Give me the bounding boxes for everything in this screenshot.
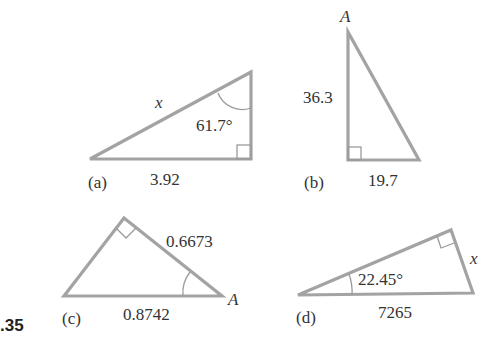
right-angle-marker-a — [237, 145, 251, 159]
part-label-c: (c) — [62, 309, 81, 328]
vertex-label-b: A — [339, 7, 351, 26]
side-label-c: 0.6673 — [166, 232, 213, 251]
part-label-a: (a) — [88, 173, 107, 192]
angle-arc-c — [183, 272, 190, 296]
vertical-side-label-b: 36.3 — [303, 88, 333, 107]
hypotenuse-label-a: x — [154, 93, 163, 112]
triangle-b-outline — [348, 32, 419, 160]
angle-label-a: 61.7° — [196, 116, 233, 135]
part-label-d: (d) — [296, 308, 316, 327]
base-label-b: 19.7 — [368, 171, 398, 190]
side-label-d: x — [469, 249, 478, 268]
angle-arc-d — [349, 274, 352, 295]
part-label-b: (b) — [304, 173, 324, 192]
triangle-d: 22.45° 7265 x (d) — [296, 230, 478, 327]
triangle-figure: x 61.7° 3.92 (a) A 36.3 19.7 (b) 0.6673 … — [0, 0, 478, 350]
problem-number: .35 — [0, 316, 24, 335]
triangle-b: A 36.3 19.7 (b) — [303, 7, 419, 192]
right-angle-marker-c — [116, 228, 136, 238]
base-label-a: 3.92 — [150, 170, 180, 189]
vertex-label-c: A — [227, 290, 239, 309]
triangle-a: x 61.7° 3.92 (a) — [88, 72, 251, 192]
triangle-c-outline — [64, 218, 222, 296]
angle-label-d: 22.45° — [358, 270, 403, 289]
triangle-c: 0.6673 0.8742 A (c) — [62, 218, 239, 328]
right-angle-marker-b — [348, 147, 361, 160]
angle-arc-a — [218, 93, 251, 110]
right-angle-marker-d — [437, 236, 454, 248]
base-label-d: 7265 — [378, 303, 412, 322]
base-label-c: 0.8742 — [123, 305, 170, 324]
